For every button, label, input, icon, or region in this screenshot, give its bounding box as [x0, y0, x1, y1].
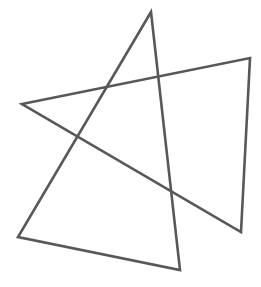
- diagram-canvas: [0, 0, 261, 287]
- wide-triangle: [22, 58, 250, 232]
- overlapping-triangles-diagram: [0, 0, 261, 287]
- tall-triangle: [18, 12, 180, 270]
